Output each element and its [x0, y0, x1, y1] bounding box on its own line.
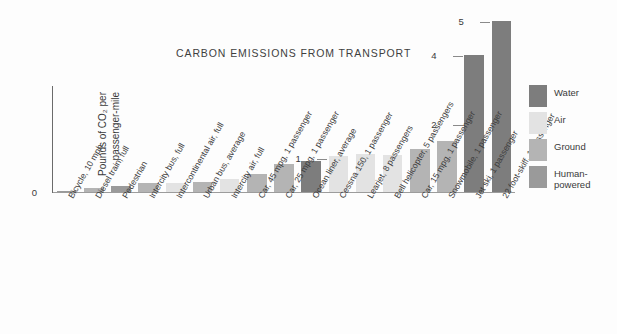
x-axis-labels: Bicycle, 10 mphDiesel train, fullPedestr…: [53, 195, 613, 334]
y-tick-mark: [49, 193, 58, 194]
legend-label: Ground: [554, 142, 586, 153]
legend-item-ground[interactable]: Ground: [529, 139, 615, 166]
legend-swatch: [529, 112, 547, 134]
legend-item-air[interactable]: Air: [529, 112, 615, 139]
chart-legend: WaterAirGroundHuman- powered: [529, 85, 615, 193]
legend-label: Water: [554, 88, 579, 99]
legend-label: Human- powered: [554, 169, 590, 190]
legend-swatch: [529, 139, 547, 161]
legend-label: Air: [554, 115, 566, 126]
legend-item-human-powered[interactable]: Human- powered: [529, 166, 615, 193]
y-tick-label: 0: [32, 187, 37, 198]
legend-swatch: [529, 166, 547, 188]
legend-swatch: [529, 85, 547, 107]
chart-figure: CARBON EMISSIONS FROM TRANSPORT Pounds o…: [0, 0, 617, 334]
legend-item-water[interactable]: Water: [529, 85, 615, 112]
